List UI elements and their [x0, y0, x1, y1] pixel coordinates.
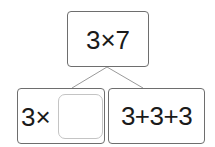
right-expression: 3+3+3: [121, 103, 192, 129]
left-expression-prefix: 3×: [21, 104, 51, 130]
connector-left: [72, 67, 107, 88]
root-expression-box: 3×7: [67, 11, 149, 67]
root-expression: 3×7: [86, 27, 130, 53]
answer-blank-box[interactable]: [58, 94, 103, 139]
right-child-box: 3+3+3: [108, 88, 205, 144]
left-child-box: 3×: [17, 88, 105, 144]
connector-right: [107, 67, 143, 88]
